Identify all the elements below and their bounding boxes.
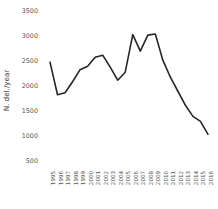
x-tick-label: 2008 — [148, 171, 154, 185]
x-tick-label: 1995 — [50, 171, 56, 185]
y-tick-label: 2500 — [22, 57, 38, 65]
y-tick-label: 3500 — [22, 7, 38, 15]
x-tick-label: 2002 — [103, 171, 109, 185]
line-chart: N. del./year 500100015002000250030003500… — [0, 0, 218, 209]
y-tick-label: 1000 — [22, 132, 38, 140]
plot-area — [42, 4, 214, 176]
x-tick-label: 2009 — [155, 171, 161, 185]
x-tick-label: 2007 — [140, 171, 146, 185]
x-tick-label: 1999 — [80, 171, 86, 185]
y-axis-title-text: N. del./year — [3, 69, 12, 111]
x-tick-label: 1998 — [73, 171, 79, 185]
x-tick-label: 2015 — [200, 171, 206, 185]
x-tick-label: 2006 — [133, 171, 139, 185]
x-tick-label: 2011 — [170, 171, 176, 185]
y-tick-label: 1500 — [22, 107, 38, 115]
x-tick-label: 2004 — [118, 171, 124, 185]
x-tick-label: 2005 — [125, 171, 131, 185]
x-tick-label: 2001 — [95, 171, 101, 185]
x-tick-label: 2013 — [185, 171, 191, 185]
x-tick-label: 2000 — [88, 171, 94, 185]
x-tick-label: 2003 — [110, 171, 116, 185]
plot-svg — [42, 4, 214, 176]
x-tick-label: 2014 — [193, 171, 199, 185]
y-axis-tick-labels: 500100015002000250030003500 — [12, 0, 40, 180]
x-tick-label: 2010 — [163, 171, 169, 185]
y-tick-label: 3000 — [22, 32, 38, 40]
x-axis-tick-labels: 1995199619971998199920002001200220032004… — [42, 178, 214, 209]
y-tick-label: 2000 — [22, 82, 38, 90]
x-tick-label: 1996 — [58, 171, 64, 185]
x-tick-label: 1997 — [65, 171, 71, 185]
x-tick-label: 2016 — [208, 171, 214, 185]
data-series-line — [50, 34, 208, 134]
x-tick-label: 2012 — [178, 171, 184, 185]
y-tick-label: 500 — [26, 157, 38, 165]
